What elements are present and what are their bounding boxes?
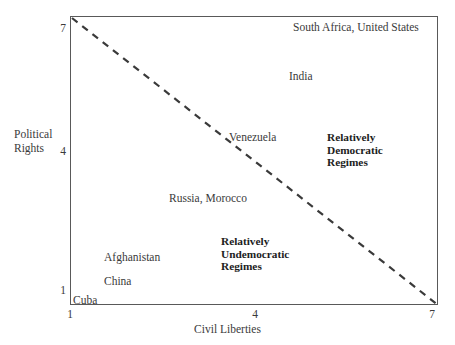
point-label-south-africa-united-states: South Africa, United States xyxy=(293,21,419,34)
chart-page: Political Rights 7 4 1 1 4 7 Civil Liber… xyxy=(0,0,455,345)
point-label-russia-morocco: Russia, Morocco xyxy=(169,192,247,205)
point-label-afghanistan: Afghanistan xyxy=(104,251,160,264)
plot-area: South Africa, United States India Venezu… xyxy=(70,16,438,305)
point-label-india: India xyxy=(289,70,313,83)
y-tick-7: 7 xyxy=(52,22,66,34)
point-label-venezuela: Venezuela xyxy=(229,131,276,144)
region-annotation-democratic: Relatively Democratic Regimes xyxy=(327,131,383,169)
region-annotation-undemocratic: Relatively Undemocratic Regimes xyxy=(221,235,289,273)
x-tick-4: 4 xyxy=(248,308,262,320)
y-tick-4: 4 xyxy=(52,145,66,157)
y-axis-title: Political Rights xyxy=(14,128,52,155)
y-tick-1: 1 xyxy=(52,284,66,296)
x-tick-7: 7 xyxy=(425,308,439,320)
x-axis-title: Civil Liberties xyxy=(0,323,455,337)
x-tick-1: 1 xyxy=(63,308,77,320)
point-label-cuba: Cuba xyxy=(73,294,97,307)
point-label-china: China xyxy=(104,275,131,288)
